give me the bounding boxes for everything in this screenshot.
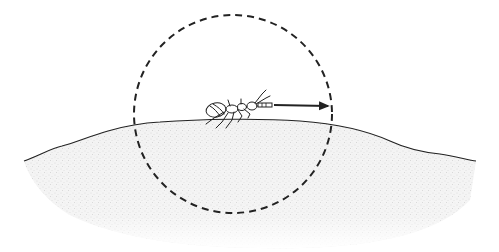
probe-segment — [258, 103, 272, 107]
illustration — [0, 0, 499, 252]
ground-fade — [24, 119, 476, 248]
radius-arrow — [274, 105, 328, 106]
ground-mound — [24, 119, 476, 248]
